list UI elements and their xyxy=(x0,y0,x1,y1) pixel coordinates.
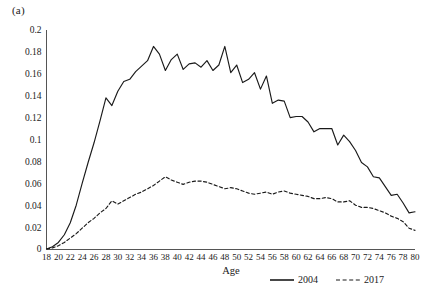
y-axis-tick-label: 0 xyxy=(37,244,42,254)
x-axis-tick-label: 52 xyxy=(244,252,253,262)
y-axis-tick-label: 0.1 xyxy=(30,135,42,145)
x-axis-tick-label: 64 xyxy=(315,252,325,262)
x-axis-tick-label: 40 xyxy=(173,252,183,262)
x-axis-tick-label: 38 xyxy=(161,252,171,262)
y-axis-tick-labels: 00.020.040.060.080.10.120.140.160.180.2 xyxy=(25,25,42,254)
line-chart: 00.020.040.060.080.10.120.140.160.180.2 … xyxy=(0,0,435,299)
x-axis-tick-label: 42 xyxy=(185,252,194,262)
x-axis-tick-label: 58 xyxy=(280,252,290,262)
x-axis-tick-label: 48 xyxy=(220,252,230,262)
x-axis-tick-label: 78 xyxy=(399,252,409,262)
x-axis-tick-label: 36 xyxy=(149,252,159,262)
series-line-2004 xyxy=(47,46,416,249)
x-axis-tick-label: 72 xyxy=(363,252,372,262)
legend-label-2004: 2004 xyxy=(298,274,318,285)
chart-legend: 20042017 xyxy=(270,274,384,285)
x-axis-tick-label: 28 xyxy=(101,252,111,262)
x-axis-tick-label: 32 xyxy=(125,252,134,262)
x-axis-title: Age xyxy=(222,265,240,276)
x-axis-tick-label: 54 xyxy=(256,252,266,262)
x-axis-tick-label: 44 xyxy=(197,252,207,262)
x-axis-tick-label: 22 xyxy=(66,252,75,262)
series-layer xyxy=(47,46,416,249)
y-axis-tick-label: 0.12 xyxy=(25,113,42,123)
x-axis-tick-label: 60 xyxy=(292,252,302,262)
y-axis-tick-label: 0.02 xyxy=(25,223,42,233)
x-axis-tick-label: 30 xyxy=(113,252,123,262)
x-axis-tick-labels: 1820222426283032343638404244464850525456… xyxy=(42,252,420,262)
y-axis-tick-label: 0.16 xyxy=(25,69,42,79)
x-axis-tick-label: 80 xyxy=(411,252,421,262)
x-axis-tick-label: 34 xyxy=(137,252,147,262)
series-line-2017 xyxy=(47,177,416,249)
x-axis-tick-label: 74 xyxy=(375,252,385,262)
x-axis-tick-label: 20 xyxy=(54,252,64,262)
legend-label-2017: 2017 xyxy=(364,274,384,285)
x-axis-tick-label: 62 xyxy=(304,252,313,262)
x-axis-tick-label: 66 xyxy=(327,252,337,262)
x-axis-tick-label: 68 xyxy=(339,252,349,262)
x-axis-tick-label: 56 xyxy=(268,252,278,262)
x-axis-tick-label: 50 xyxy=(232,252,242,262)
y-axis-tick-label: 0.08 xyxy=(25,157,42,167)
x-axis-tick-label: 76 xyxy=(387,252,397,262)
x-axis-tick-label: 26 xyxy=(90,252,100,262)
y-axis-tick-label: 0.04 xyxy=(25,201,42,211)
y-axis-tick-label: 0.2 xyxy=(30,25,42,35)
figure-panel-a: (a) 00.020.040.060.080.10.120.140.160.18… xyxy=(0,0,435,299)
x-axis-tick-label: 46 xyxy=(208,252,218,262)
x-axis-tick-label: 70 xyxy=(351,252,361,262)
x-axis-tick-label: 24 xyxy=(78,252,88,262)
y-axis-tick-label: 0.18 xyxy=(25,47,42,57)
x-axis-tick-label: 18 xyxy=(42,252,52,262)
y-axis-tick-label: 0.14 xyxy=(25,91,42,101)
y-axis-tick-label: 0.06 xyxy=(25,179,42,189)
